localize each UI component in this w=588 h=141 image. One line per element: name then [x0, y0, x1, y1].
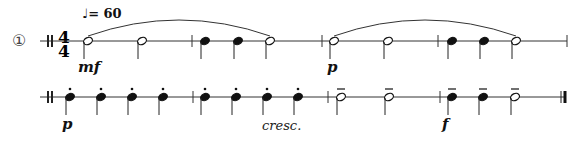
staccato-dot [266, 88, 269, 91]
staccato-dot [297, 88, 300, 91]
staccato-dot [131, 88, 134, 91]
slur [334, 20, 516, 36]
dynamic-f: f [442, 115, 448, 133]
slur [88, 20, 270, 36]
dynamic-p: p [327, 58, 338, 76]
crescendo-marking: cresc. [262, 118, 301, 133]
staccato-dot [100, 88, 103, 91]
dynamic-mf: mf [78, 58, 100, 76]
staccato-dot [235, 88, 238, 91]
staccato-dot [162, 88, 165, 91]
dynamic-p: p [62, 115, 73, 133]
staccato-dot [69, 88, 72, 91]
staccato-dot [204, 88, 207, 91]
